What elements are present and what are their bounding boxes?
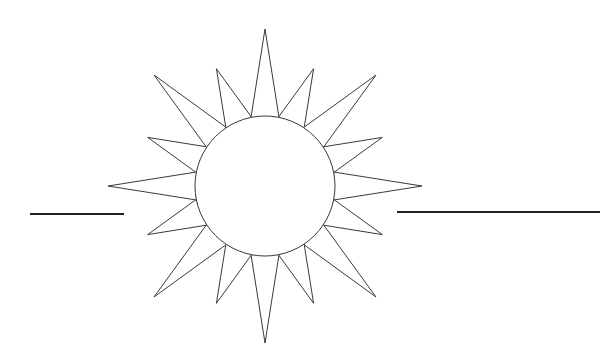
long-ray [334, 172, 422, 200]
sun-illustration [0, 0, 600, 353]
long-ray [251, 255, 279, 343]
sun-disc [195, 116, 335, 256]
long-ray [108, 172, 196, 200]
long-ray [251, 29, 279, 117]
